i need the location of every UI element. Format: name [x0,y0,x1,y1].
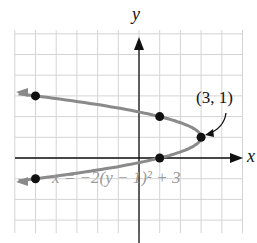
data-point [197,133,206,142]
data-point [155,112,164,121]
plot-area [0,0,257,243]
vertex-label: (3, 1) [196,88,233,108]
data-point [31,91,40,100]
parabola-graph: x = −2(y − 1)² + 3 (3, 1) x y [0,0,257,243]
y-axis-label: y [132,4,140,25]
data-point [155,154,164,163]
equation-label: x = −2(y − 1)² + 3 [52,168,180,188]
x-axis-arrow-icon [230,153,243,163]
pointer-arrow-icon [205,129,214,137]
x-axis-label: x [247,146,255,167]
y-axis-arrow-icon [134,37,144,50]
data-point [31,174,40,183]
